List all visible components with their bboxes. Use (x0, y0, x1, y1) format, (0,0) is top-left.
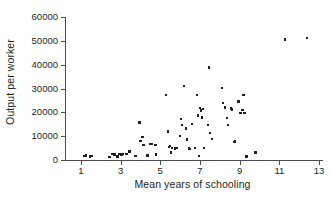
y-axis-tick-label-text: 50000 (16, 36, 58, 46)
data-point (108, 156, 110, 158)
data-point (284, 38, 286, 40)
data-point (203, 147, 205, 149)
data-point (181, 124, 183, 126)
y-axis-tick-label: 20000 (14, 107, 58, 117)
data-point (134, 155, 136, 157)
data-point (185, 127, 187, 129)
data-point (142, 144, 144, 146)
data-point (91, 155, 93, 157)
data-point (209, 132, 211, 134)
data-point (241, 109, 243, 111)
data-point (208, 66, 210, 68)
data-point (179, 135, 181, 137)
data-point (121, 153, 123, 155)
data-point (125, 153, 127, 155)
y-axis-tick-label: 10000 (14, 131, 58, 141)
y-axis-tick-label: 60000 (14, 12, 58, 22)
y-axis-tick (61, 17, 65, 18)
data-point (239, 112, 241, 114)
y-axis-tick-label-text: 0 (16, 155, 58, 165)
x-axis-spine (65, 160, 323, 161)
data-point (194, 147, 196, 149)
x-axis-tick-label: 5 (148, 166, 172, 176)
data-point (183, 85, 185, 87)
y-axis-tick (61, 89, 65, 90)
y-axis-tick-label-text: 20000 (16, 107, 58, 117)
data-point (128, 150, 130, 152)
data-point (227, 124, 229, 126)
data-point (165, 94, 167, 96)
y-axis-tick-label-text: 30000 (16, 84, 58, 94)
data-point (85, 154, 87, 156)
data-point (170, 151, 172, 153)
data-point (243, 112, 245, 114)
data-point (242, 94, 244, 96)
y-axis-tick (61, 136, 65, 137)
x-axis-tick-label: 7 (188, 166, 212, 176)
y-axis-tick-label-text: 10000 (16, 131, 58, 141)
data-point (116, 155, 118, 157)
data-point (202, 108, 204, 110)
y-axis-tick (61, 41, 65, 42)
y-axis-tick-label: 40000 (14, 60, 58, 70)
data-point (234, 140, 236, 142)
y-axis-tick-label: 0 (14, 155, 58, 165)
data-point (191, 123, 193, 125)
y-axis-tick (61, 160, 65, 161)
y-axis-tick-label-text: 60000 (16, 12, 58, 22)
y-axis-tick-label: 30000 (14, 84, 58, 94)
data-point (254, 151, 256, 153)
data-point (176, 147, 178, 149)
data-point (224, 106, 226, 108)
plot-area: 0100002000030000400005000060000135791113 (0, 0, 332, 199)
data-point (139, 140, 141, 142)
y-axis-tick (61, 65, 65, 66)
data-point (141, 136, 143, 138)
data-point (306, 37, 308, 39)
y-axis-tick-label-text: 40000 (16, 60, 58, 70)
data-point (245, 155, 247, 157)
data-point (222, 102, 224, 104)
x-axis-tick-label: 13 (307, 166, 331, 176)
data-point (167, 130, 169, 132)
data-point (196, 94, 198, 96)
data-point (155, 153, 157, 155)
data-point (138, 121, 140, 123)
data-point (221, 87, 223, 89)
data-point (186, 138, 188, 140)
data-point (189, 148, 191, 150)
x-axis-tick-label: 9 (228, 166, 252, 176)
data-point (226, 117, 228, 119)
x-axis-tick-label: 3 (109, 166, 133, 176)
data-point (211, 138, 213, 140)
data-point (237, 100, 239, 102)
data-point (154, 144, 156, 146)
y-axis-spine (65, 17, 66, 161)
scatter-chart-figure: Output per worker Mean years of schoolin… (0, 0, 332, 199)
data-point (180, 118, 182, 120)
data-point (201, 116, 203, 118)
data-point (207, 124, 209, 126)
x-axis-tick-label: 11 (267, 166, 291, 176)
y-axis-tick-label: 50000 (14, 36, 58, 46)
data-point (197, 114, 199, 116)
data-point (150, 143, 152, 145)
x-axis-tick-label: 1 (69, 166, 93, 176)
data-point (146, 154, 148, 156)
data-point (198, 155, 200, 157)
y-axis-tick (61, 112, 65, 113)
data-point (231, 108, 233, 110)
